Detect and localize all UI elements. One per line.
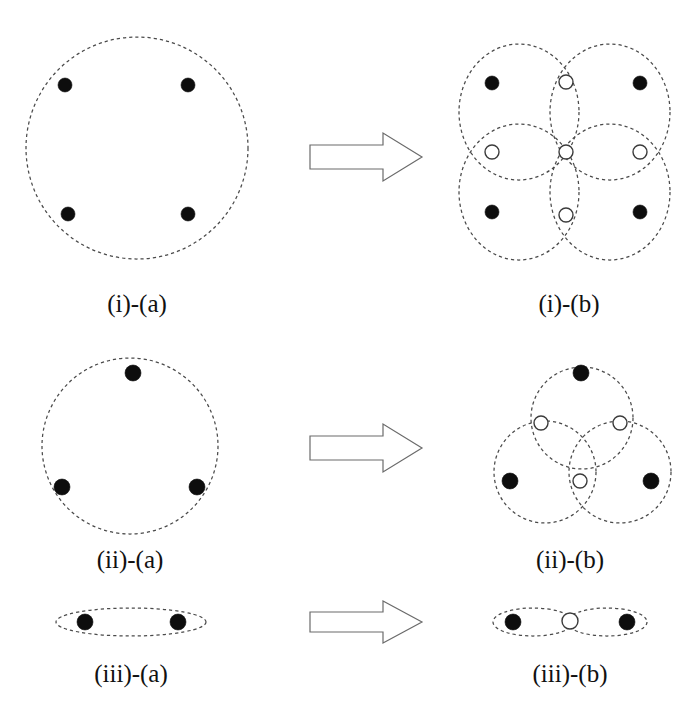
filled-node (181, 207, 195, 221)
open-node (485, 145, 499, 159)
filled-node (170, 614, 186, 630)
dashed-ellipse (550, 44, 670, 180)
caption-i-b: (i)-(b) (538, 290, 599, 318)
filled-node (502, 473, 518, 489)
panel-ii-a: (ii)-(a) (42, 358, 218, 574)
arrow-row-ii (310, 424, 422, 472)
filled-node (189, 479, 205, 495)
filled-node (125, 365, 141, 381)
iii-a-filled-nodes (77, 614, 186, 630)
dashed-circle (569, 421, 671, 523)
open-node (573, 474, 587, 488)
filled-node (633, 205, 647, 219)
filled-node (643, 473, 659, 489)
open-node (559, 145, 573, 159)
panel-iii-a: (iii)-(a) (56, 608, 206, 688)
i-a-hyperedge-shapes (26, 37, 248, 259)
panel-ii-b: (ii)-(b) (494, 365, 671, 574)
open-node (534, 416, 548, 430)
ii-b-hyperedge-shapes (494, 367, 671, 523)
open-node (559, 75, 573, 89)
caption-iii-b: (iii)-(b) (533, 660, 608, 688)
dashed-circle (42, 358, 218, 534)
filled-node (633, 76, 647, 90)
filled-node (485, 76, 499, 90)
figure-root: (i)-(a) (0, 0, 693, 706)
dashed-circle (494, 421, 596, 523)
row-iii: (iii)-(a) (iii)-(b) (56, 601, 647, 688)
row-i: (i)-(a) (26, 37, 670, 318)
filled-node (573, 365, 589, 381)
open-node (613, 416, 627, 430)
dashed-ellipse (459, 124, 579, 260)
filled-node (181, 78, 195, 92)
iii-b-open-nodes (562, 613, 578, 629)
filled-node (77, 614, 93, 630)
filled-node (619, 614, 635, 630)
right-arrow-icon (310, 133, 422, 181)
panel-i-a: (i)-(a) (26, 37, 248, 318)
ii-b-filled-nodes (502, 365, 659, 489)
panel-iii-b: (iii)-(b) (493, 608, 647, 688)
caption-ii-a: (ii)-(a) (97, 546, 164, 574)
dashed-circle (26, 37, 248, 259)
panel-i-b: (i)-(b) (459, 44, 670, 318)
dashed-ellipse (550, 124, 670, 260)
caption-ii-b: (ii)-(b) (536, 546, 604, 574)
arrow-row-i (310, 133, 422, 181)
arrow-row-iii (310, 601, 422, 643)
i-a-filled-nodes (58, 78, 195, 221)
caption-i-a: (i)-(a) (107, 290, 167, 318)
filled-node (505, 614, 521, 630)
diagram-canvas: (i)-(a) (0, 0, 693, 706)
filled-node (58, 78, 72, 92)
right-arrow-icon (310, 424, 422, 472)
dashed-ellipse (459, 44, 579, 180)
i-b-open-nodes (485, 75, 647, 222)
ii-a-hyperedge-shapes (42, 358, 218, 534)
open-node (562, 613, 578, 629)
right-arrow-icon (310, 601, 422, 643)
open-node (559, 208, 573, 222)
caption-iii-a: (iii)-(a) (94, 660, 168, 688)
ii-a-filled-nodes (54, 365, 205, 495)
ii-b-open-nodes (534, 416, 627, 488)
open-node (633, 145, 647, 159)
filled-node (54, 479, 70, 495)
row-ii: (ii)-(a) (42, 358, 671, 574)
filled-node (485, 205, 499, 219)
filled-node (61, 207, 75, 221)
